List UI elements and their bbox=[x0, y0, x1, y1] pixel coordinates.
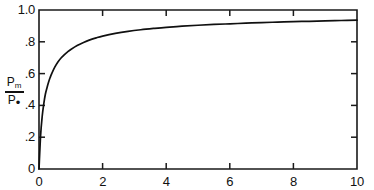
x-tick-label-2: 4 bbox=[151, 175, 181, 188]
x-tick-label-0: 0 bbox=[24, 175, 54, 188]
y-tick-label-2: .4 bbox=[25, 98, 35, 111]
y-axis-title-numerator-subscript: m bbox=[15, 81, 22, 90]
y-tick-label-4: .8 bbox=[25, 35, 35, 48]
y-axis-title: Pm P• bbox=[2, 76, 26, 106]
y-axis-title-numerator: Pm bbox=[2, 76, 26, 91]
y-tick-label-5: 1.0 bbox=[18, 3, 35, 16]
plot-area bbox=[0, 0, 374, 190]
data-curve-group bbox=[39, 20, 357, 169]
y-tick-label-1: .2 bbox=[25, 130, 35, 143]
y-axis-title-denominator: P• bbox=[2, 93, 26, 106]
tick-marks bbox=[39, 10, 357, 169]
y-tick-label-0: 0 bbox=[28, 162, 35, 175]
x-tick-label-1: 2 bbox=[88, 175, 118, 188]
y-axis-title-numerator-base: P bbox=[7, 75, 15, 89]
x-tick-label-3: 6 bbox=[215, 175, 245, 188]
axis-frame bbox=[39, 10, 357, 169]
x-tick-label-4: 8 bbox=[278, 175, 308, 188]
chart-figure: 0.2.4.6.81.0 0246810 Pm P• bbox=[0, 0, 374, 190]
data-curve bbox=[39, 20, 357, 169]
y-axis-title-denominator-subscript: • bbox=[16, 95, 21, 110]
x-tick-label-5: 10 bbox=[342, 175, 372, 188]
plot-box-border bbox=[39, 10, 357, 169]
y-axis-title-denominator-base: P bbox=[8, 93, 16, 107]
y-tick-label-3: .6 bbox=[25, 67, 35, 80]
